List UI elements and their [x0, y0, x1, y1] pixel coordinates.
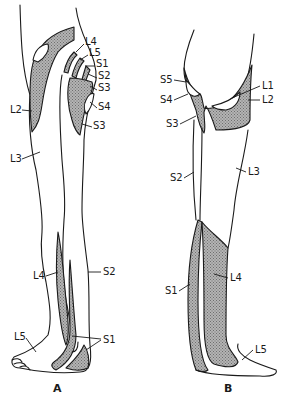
dermatome-label-l3: L3 — [10, 153, 22, 164]
dermatome-label-l3: L3 — [248, 166, 260, 177]
region-a-s1-band — [72, 58, 84, 78]
panel-a-caption: A — [53, 382, 62, 395]
dermatome-label-s2: S2 — [170, 172, 183, 183]
panel-b-caption: B — [224, 382, 232, 395]
dermatome-label-l2: L2 — [262, 94, 274, 105]
dermatome-label-s1: S1 — [96, 58, 109, 69]
region-a-l2 — [30, 27, 74, 132]
dermatome-label-s3: S3 — [98, 82, 111, 93]
dermatome-label-s5: S5 — [160, 74, 173, 85]
dermatome-label-s4: S4 — [98, 101, 111, 112]
dermatome-label-s2: S2 — [98, 70, 111, 81]
dermatome-label-l4: L4 — [85, 36, 97, 47]
dermatome-label-s4: S4 — [160, 94, 173, 105]
dermatome-label-l2: L2 — [10, 104, 22, 115]
dermatome-label-l5: L5 — [255, 344, 267, 355]
dermatome-label-s2: S2 — [103, 266, 116, 277]
dermatome-label-s3: S3 — [166, 118, 179, 129]
dermatome-label-l4: L4 — [230, 272, 242, 283]
dermatome-label-l5: L5 — [89, 47, 101, 58]
panel-b-thigh-right — [228, 130, 248, 248]
region-b-l4 — [202, 222, 238, 367]
dermatome-label-s1: S1 — [103, 334, 116, 345]
panel-b-thigh-mid — [200, 128, 202, 220]
dermatome-label-l4: L4 — [33, 270, 45, 281]
dermatome-label-s1: S1 — [165, 285, 178, 296]
dermatome-label-s3: S3 — [93, 120, 106, 131]
panel-a-leg — [12, 5, 96, 373]
region-b-s4-patch — [186, 80, 200, 96]
dermatome-label-l1: L1 — [262, 80, 274, 91]
dermatome-figure: L4L5S1S2S3L2S4S3L3L4S2L5S1 S5L1S4L2S3S2L… — [0, 0, 285, 399]
dermatome-label-l5: L5 — [14, 331, 26, 342]
panel-b-thigh-left — [193, 120, 196, 220]
